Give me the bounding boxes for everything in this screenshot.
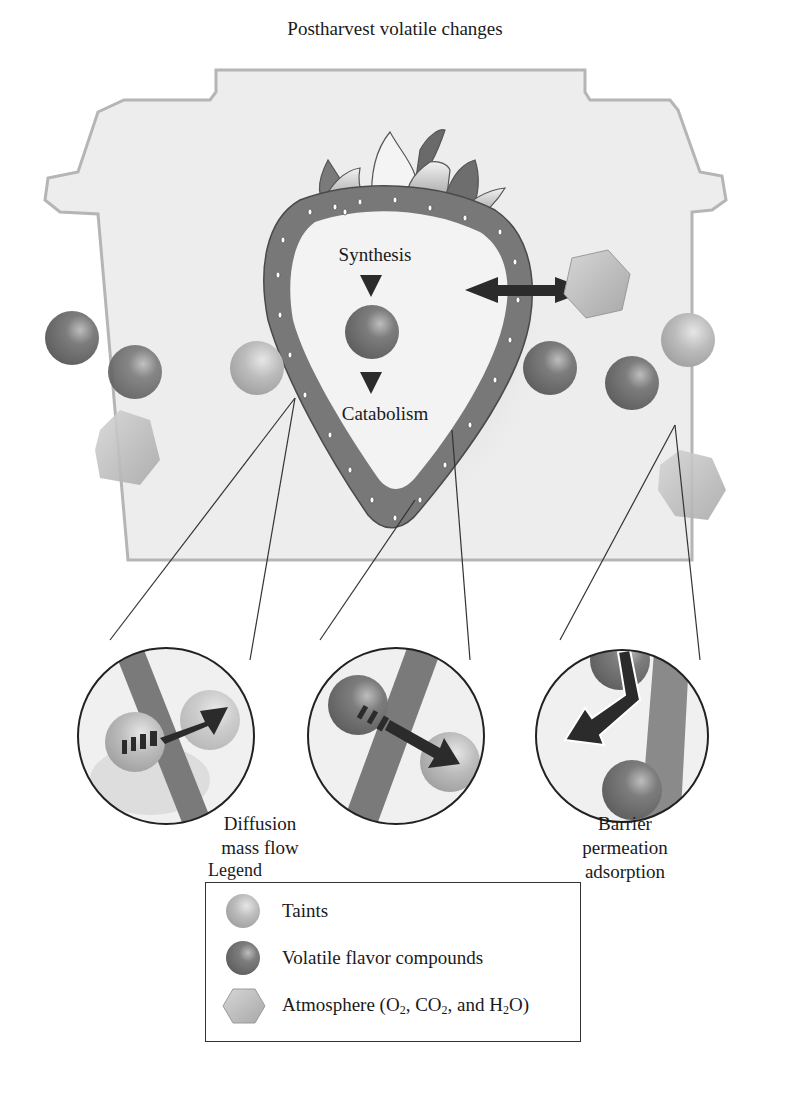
volatile-flavor-sphere — [108, 345, 162, 399]
legend-box: Taints Volatile flavor compounds Atmosph… — [205, 882, 581, 1042]
light-sphere-icon — [220, 891, 266, 931]
legend-label: Atmosphere (O2, CO2, and H2O) — [282, 994, 529, 1018]
label-line: permeation — [560, 836, 690, 860]
volatile-flavor-sphere — [523, 341, 577, 395]
inset-diffusion-label: Diffusion mass flow — [200, 812, 320, 860]
legend-title: Legend — [208, 860, 262, 881]
legend-item-atmosphere: Atmosphere (O2, CO2, and H2O) — [206, 986, 529, 1026]
synthesis-label: Synthesis — [320, 243, 430, 267]
label-line: mass flow — [200, 836, 320, 860]
label-line: Barrier — [560, 812, 690, 836]
volatile-flavor-sphere — [605, 356, 659, 410]
taint-sphere — [661, 313, 715, 367]
dark-sphere-icon — [220, 938, 266, 978]
inset-skin-crossing — [308, 640, 484, 830]
inset-barrier — [536, 630, 708, 830]
center-volatile-sphere — [345, 305, 399, 359]
legend-label: Taints — [282, 900, 328, 922]
label-line: Diffusion — [200, 812, 320, 836]
inset-barrier-label: Barrier permeation adsorption — [560, 812, 690, 884]
volatile-flavor-sphere — [45, 311, 99, 365]
legend-label: Volatile flavor compounds — [282, 947, 483, 969]
legend-item-volatile: Volatile flavor compounds — [206, 938, 483, 978]
inset-diffusion — [78, 640, 254, 830]
taint-sphere — [230, 341, 284, 395]
legend-item-taints: Taints — [206, 891, 328, 931]
hexagon-icon — [220, 986, 266, 1026]
catabolism-label: Catabolism — [330, 402, 440, 426]
label-line: adsorption — [560, 860, 690, 884]
